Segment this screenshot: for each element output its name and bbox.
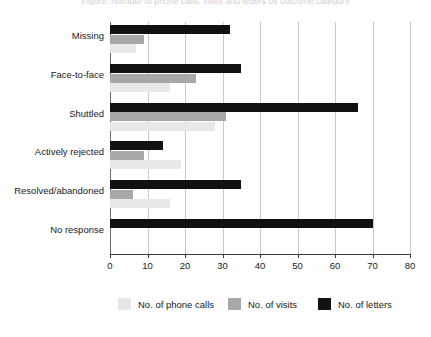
- x-tick-label: 10: [142, 260, 153, 271]
- bar: [110, 112, 226, 121]
- x-tick-label: 20: [180, 260, 191, 271]
- category-label: No response: [0, 224, 104, 235]
- category-label: Actively rejected: [0, 146, 104, 157]
- x-tick: [335, 254, 336, 258]
- bar-chart: Figure: Number of phone calls, visits an…: [0, 0, 431, 337]
- legend-label: No. of phone calls: [138, 299, 214, 310]
- legend-item-visits: No. of visits: [228, 298, 297, 310]
- category-label: Shuttled: [0, 108, 104, 119]
- x-tick-label: 0: [107, 260, 112, 271]
- x-tick-label: 50: [292, 260, 303, 271]
- x-tick: [223, 254, 224, 258]
- bar: [110, 35, 144, 44]
- bar: [110, 141, 163, 150]
- bar: [110, 160, 181, 169]
- legend-label: No. of visits: [248, 299, 297, 310]
- bar: [110, 180, 241, 189]
- x-tick: [373, 254, 374, 258]
- chart-legend: No. of phone callsNo. of visitsNo. of le…: [0, 298, 431, 320]
- legend-label: No. of letters: [338, 299, 392, 310]
- gridline: [373, 22, 374, 254]
- x-tick-label: 30: [217, 260, 228, 271]
- bar: [110, 199, 170, 208]
- bar: [110, 74, 196, 83]
- legend-item-letters: No. of letters: [318, 298, 392, 310]
- x-tick-label: 80: [405, 260, 416, 271]
- clipped-caption: Figure: Number of phone calls, visits an…: [0, 0, 431, 5]
- x-tick: [410, 254, 411, 258]
- x-tick-label: 70: [367, 260, 378, 271]
- bar: [110, 64, 241, 73]
- plot-area: [110, 22, 410, 254]
- category-label: Face-to-face: [0, 69, 104, 80]
- bar: [110, 103, 358, 112]
- bar: [110, 44, 136, 53]
- x-tick: [298, 254, 299, 258]
- legend-swatch-visits: [228, 298, 241, 310]
- x-tick-label: 60: [330, 260, 341, 271]
- x-tick: [148, 254, 149, 258]
- x-tick: [110, 254, 111, 258]
- category-label: Resolved/abandoned: [0, 185, 104, 196]
- bar: [110, 219, 373, 228]
- legend-swatch-calls: [118, 298, 131, 310]
- bar: [110, 190, 133, 199]
- bar: [110, 83, 170, 92]
- legend-swatch-letters: [318, 298, 331, 310]
- gridline: [410, 22, 411, 254]
- legend-item-calls: No. of phone calls: [118, 298, 214, 310]
- x-tick: [185, 254, 186, 258]
- x-tick: [260, 254, 261, 258]
- bar: [110, 25, 230, 34]
- x-tick-label: 40: [255, 260, 266, 271]
- bar: [110, 122, 215, 131]
- category-label: Missing: [0, 30, 104, 41]
- bar: [110, 151, 144, 160]
